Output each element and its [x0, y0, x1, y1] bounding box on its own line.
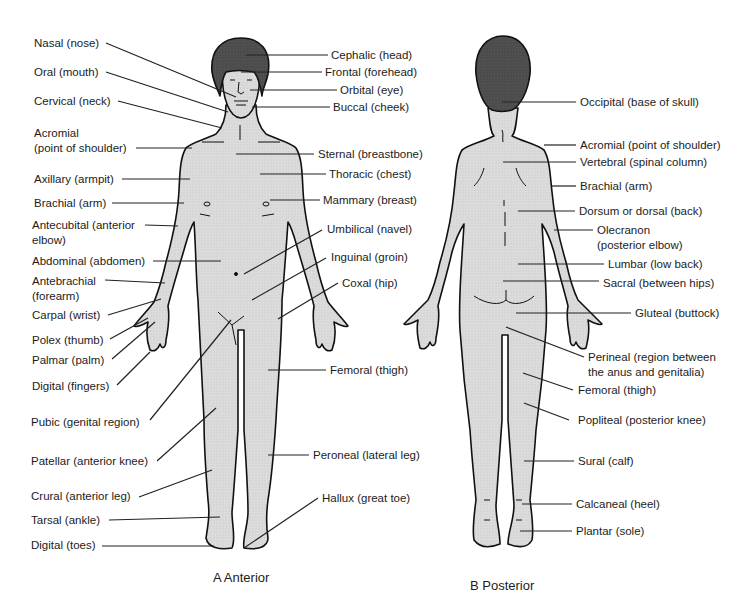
label-dorsum: Dorsum or dorsal (back)	[579, 204, 702, 219]
label-cephalic: Cephalic (head)	[331, 48, 412, 63]
label-frontal: Frontal (forehead)	[325, 65, 417, 80]
body-regions-diagram: Nasal (nose) Oral (mouth) Cervical (neck…	[0, 0, 754, 611]
label-mammary: Mammary (breast)	[323, 193, 417, 208]
posterior-figure	[404, 36, 602, 547]
label-sternal: Sternal (breastbone)	[318, 147, 423, 162]
label-antebrachial-sub: (forearm)	[32, 289, 79, 304]
label-vertebral: Vertebral (spinal column)	[580, 155, 707, 170]
label-buccal: Buccal (cheek)	[333, 100, 409, 115]
label-crural: Crural (anterior leg)	[31, 489, 131, 504]
anterior-figure	[134, 38, 348, 549]
label-acromial-anterior-sub: (point of shoulder)	[34, 141, 127, 156]
label-sural: Sural (calf)	[578, 454, 634, 469]
label-orbital: Orbital (eye)	[340, 83, 403, 98]
label-acromial-posterior: Acromial (point of shoulder)	[580, 138, 721, 153]
label-lumbar: Lumbar (low back)	[608, 257, 703, 272]
label-coxal: Coxal (hip)	[342, 276, 398, 291]
label-abdominal: Abdominal (abdomen)	[32, 254, 145, 269]
posterior-body-outline	[404, 108, 602, 547]
caption-anterior: A Anterior	[213, 570, 269, 585]
label-popliteal: Popliteal (posterior knee)	[578, 413, 706, 428]
label-acromial-anterior: Acromial	[34, 126, 79, 141]
label-antebrachial: Antebrachial	[32, 274, 96, 289]
label-antecubital: Antecubital (anterior	[32, 218, 135, 233]
label-brachial-posterior: Brachial (arm)	[580, 179, 652, 194]
label-thoracic: Thoracic (chest)	[329, 167, 411, 182]
label-sacral: Sacral (between hips)	[603, 276, 714, 291]
label-inguinal: Inguinal (groin)	[331, 250, 408, 265]
label-umbilical: Umbilical (navel)	[327, 222, 412, 237]
label-patellar: Patellar (anterior knee)	[31, 454, 148, 469]
label-hallux: Hallux (great toe)	[322, 491, 410, 506]
label-perineal: Perineal (region between	[588, 350, 716, 365]
label-digital-toes: Digital (toes)	[31, 538, 96, 553]
caption-posterior: B Posterior	[470, 578, 534, 593]
label-carpal: Carpal (wrist)	[32, 308, 100, 323]
label-axillary: Axillary (armpit)	[34, 172, 114, 187]
label-cervical: Cervical (neck)	[34, 94, 111, 109]
label-perineal-sub: the anus and genitalia)	[588, 365, 704, 380]
label-occipital: Occipital (base of skull)	[580, 95, 699, 110]
label-plantar: Plantar (sole)	[576, 524, 644, 539]
label-gluteal: Gluteal (buttock)	[635, 306, 719, 321]
label-pubic: Pubic (genital region)	[31, 415, 140, 430]
label-brachial-anterior: Brachial (arm)	[34, 196, 106, 211]
label-peroneal: Peroneal (lateral leg)	[313, 448, 420, 463]
label-polex: Polex (thumb)	[32, 333, 104, 348]
label-digital-fingers: Digital (fingers)	[32, 379, 109, 394]
label-antecubital-sub: elbow)	[32, 233, 66, 248]
label-calcaneal: Calcaneal (heel)	[576, 497, 660, 512]
label-oral: Oral (mouth)	[34, 65, 99, 80]
label-palmar: Palmar (palm)	[32, 353, 104, 368]
label-tarsal: Tarsal (ankle)	[31, 513, 100, 528]
leader-lines	[102, 43, 631, 548]
label-olecranon: Olecranon	[597, 223, 650, 238]
label-femoral-anterior: Femoral (thigh)	[330, 363, 408, 378]
anterior-body-outline	[134, 105, 348, 549]
label-nasal: Nasal (nose)	[34, 36, 99, 51]
posterior-head	[476, 36, 530, 112]
label-olecranon-sub: (posterior elbow)	[597, 238, 683, 253]
label-femoral-posterior: Femoral (thigh)	[578, 383, 656, 398]
